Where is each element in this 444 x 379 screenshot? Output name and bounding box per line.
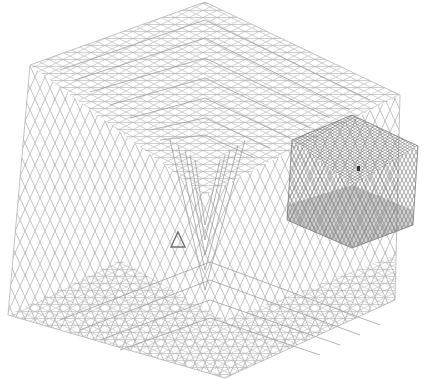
lattice-artwork	[0, 0, 444, 379]
small-cube-dark-mark	[357, 166, 360, 171]
